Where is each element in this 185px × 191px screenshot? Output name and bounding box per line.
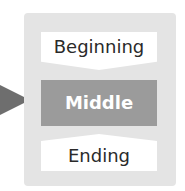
stage-middle-label: Middle xyxy=(65,94,133,112)
stage-ending: Ending xyxy=(41,134,157,171)
stage-middle: Middle xyxy=(41,80,157,126)
stage-beginning-label: Beginning xyxy=(54,38,145,56)
stage-ending-label: Ending xyxy=(68,147,130,165)
